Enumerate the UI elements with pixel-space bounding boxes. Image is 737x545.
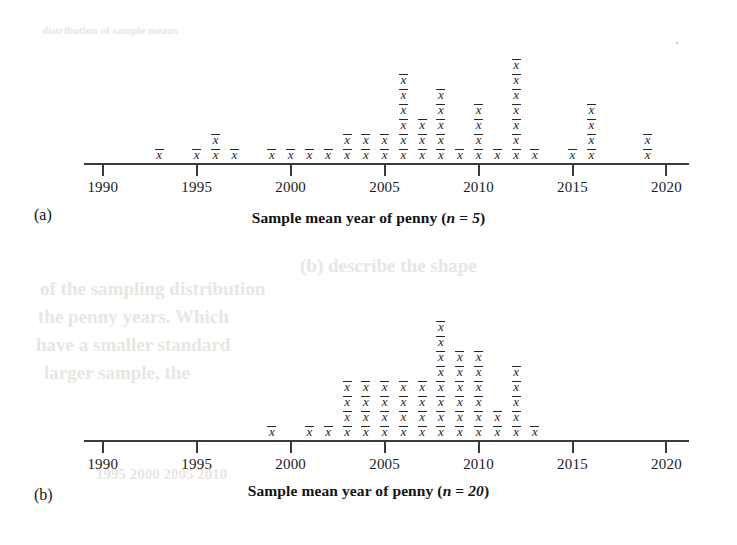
dot-stack-1997: x — [225, 147, 243, 162]
x-axis-tick-1995 — [196, 442, 198, 453]
x-axis-tick-label-2015: 2015 — [543, 456, 603, 473]
x-axis-tick-2015 — [572, 442, 574, 453]
x-bar-mark: x — [511, 394, 522, 409]
x-bar-mark: x — [492, 409, 503, 424]
x-bar-mark: x — [435, 379, 446, 394]
dot-stack-2005: xx — [376, 132, 394, 162]
dot-stack-2007: xxxx — [413, 379, 431, 439]
x-bar-mark: x — [454, 349, 465, 364]
x-bar-mark: x — [511, 409, 522, 424]
bleedthrough-line-5: larger sample, the — [44, 362, 190, 384]
x-bar-mark: x — [492, 424, 503, 439]
x-bar-mark: x — [360, 409, 371, 424]
x-bar-mark: x — [229, 147, 240, 162]
x-bar-mark: x — [586, 102, 597, 117]
dot-stack-2003: xx — [338, 132, 356, 162]
x-bar-mark: x — [417, 379, 428, 394]
x-axis-tick-label-1995: 1995 — [167, 456, 227, 473]
x-bar-mark: x — [642, 147, 653, 162]
x-bar-mark: x — [473, 364, 484, 379]
bleedthrough-line-2: of the sampling distribution — [40, 278, 265, 300]
x-bar-mark: x — [210, 132, 221, 147]
x-bar-mark: x — [435, 147, 446, 162]
x-bar-mark: x — [435, 334, 446, 349]
x-axis-tick-2005 — [384, 442, 386, 453]
dot-stack-2016: xxxx — [582, 102, 600, 162]
dot-stack-2003: xxxx — [338, 379, 356, 439]
caption-b-n-value: 20 — [468, 482, 484, 499]
x-bar-mark: x — [398, 72, 409, 87]
x-axis-tick-label-2005: 2005 — [355, 456, 415, 473]
x-axis-tick-label-1995: 1995 — [167, 179, 227, 196]
x-bar-mark: x — [642, 132, 653, 147]
dot-stack-2001: x — [300, 424, 318, 439]
x-axis-tick-label-2005: 2005 — [355, 179, 415, 196]
x-axis-tick-label-1990: 1990 — [73, 179, 133, 196]
dot-stack-1996: xx — [207, 132, 225, 162]
x-bar-mark: x — [398, 379, 409, 394]
x-bar-mark: x — [529, 424, 540, 439]
dot-stack-1995: x — [188, 147, 206, 162]
x-bar-mark: x — [454, 394, 465, 409]
dot-stack-2009: x — [451, 147, 469, 162]
x-bar-mark: x — [398, 394, 409, 409]
x-bar-mark: x — [266, 147, 277, 162]
dot-stack-2013: x — [526, 147, 544, 162]
x-bar-mark: x — [360, 132, 371, 147]
x-bar-mark: x — [304, 147, 315, 162]
dot-stack-2010: xxxxxx — [470, 349, 488, 439]
x-axis-tick-label-2015: 2015 — [543, 179, 603, 196]
x-bar-mark: x — [342, 379, 353, 394]
x-bar-mark: x — [342, 147, 353, 162]
x-bar-mark: x — [342, 132, 353, 147]
x-axis-tick-2005 — [384, 165, 386, 176]
dot-stack-2012: xxxxx — [507, 364, 525, 439]
caption-b-equals: = — [451, 482, 468, 499]
x-bar-mark: x — [435, 409, 446, 424]
x-bar-mark: x — [435, 87, 446, 102]
x-bar-mark: x — [473, 147, 484, 162]
x-bar-mark: x — [586, 132, 597, 147]
x-bar-mark: x — [435, 132, 446, 147]
x-axis-tick-2000 — [290, 442, 292, 453]
x-bar-mark: x — [379, 424, 390, 439]
x-bar-mark: x — [379, 394, 390, 409]
bleedthrough-line-4: have a smaller standard — [36, 334, 230, 356]
dot-stack-2005: xxxx — [376, 379, 394, 439]
x-bar-mark: x — [473, 409, 484, 424]
dot-stack-2011: xx — [488, 409, 506, 439]
x-axis-tick-2010 — [478, 165, 480, 176]
x-axis-tick-2000 — [290, 165, 292, 176]
x-bar-mark: x — [323, 147, 334, 162]
x-axis-tick-label-2000: 2000 — [261, 456, 321, 473]
x-bar-mark: x — [529, 147, 540, 162]
dot-stack-2002: x — [319, 424, 337, 439]
x-bar-mark: x — [473, 102, 484, 117]
caption-b: Sample mean year of penny (n = 20) — [0, 482, 737, 500]
x-bar-mark: x — [473, 117, 484, 132]
x-bar-mark: x — [360, 394, 371, 409]
dot-stack-1999: x — [263, 424, 281, 439]
x-bar-mark: x — [511, 132, 522, 147]
dot-stack-2006: xxxxxx — [394, 72, 412, 162]
x-bar-mark: x — [435, 424, 446, 439]
x-axis-tick-label-2020: 2020 — [636, 179, 696, 196]
x-bar-mark: x — [473, 394, 484, 409]
x-axis-line-b — [84, 440, 689, 442]
x-bar-mark: x — [342, 409, 353, 424]
x-bar-mark: x — [398, 87, 409, 102]
x-bar-mark: x — [454, 364, 465, 379]
x-bar-mark: x — [454, 379, 465, 394]
x-bar-mark: x — [304, 424, 315, 439]
x-bar-mark: x — [417, 117, 428, 132]
x-bar-mark: x — [435, 117, 446, 132]
x-bar-mark: x — [379, 409, 390, 424]
x-axis-tick-1990 — [102, 165, 104, 176]
caption-a-n-var: n — [447, 209, 456, 226]
x-bar-mark: x — [511, 424, 522, 439]
x-bar-mark: x — [473, 379, 484, 394]
x-bar-mark: x — [435, 364, 446, 379]
dot-stack-2001: x — [300, 147, 318, 162]
caption-b-prefix: Sample mean year of penny ( — [248, 482, 443, 499]
dot-stack-2012: xxxxxxx — [507, 57, 525, 162]
